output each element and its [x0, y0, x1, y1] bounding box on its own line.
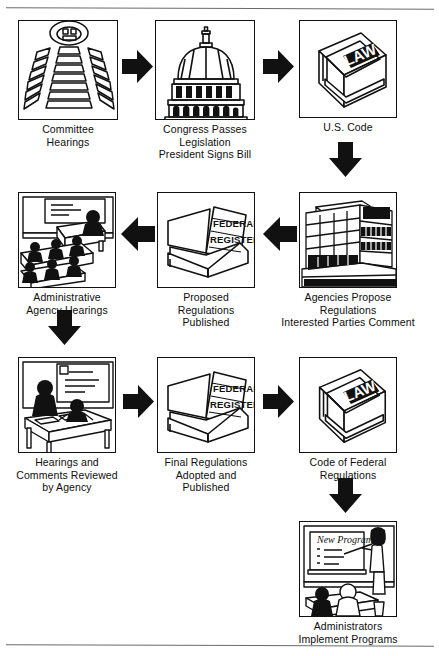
page-rule-top	[6, 7, 434, 9]
capitol-dome-icon	[156, 21, 255, 120]
node-proposed-regulations-published[interactable]: FEDERAL REGISTER Proposed Regulations Pu…	[157, 192, 255, 329]
whiteboard-label: New Program	[316, 534, 373, 545]
caption-proposed-regulations-published: Proposed Regulations Published	[157, 291, 255, 329]
caption-agencies-propose-regulations: Agencies Propose Regulations Interested …	[278, 291, 418, 329]
caption-us-code: U.S. Code	[299, 121, 397, 134]
panel-administrative-agency-hearings	[18, 192, 116, 288]
open-federal-register-book-icon: FEDERAL REGISTER	[158, 358, 255, 453]
arrow-proposed-to-hearings	[120, 215, 156, 253]
caption-administrators-implement-programs: Administrators Implement Programs	[283, 620, 413, 645]
arrow-hearings-to-review	[46, 309, 83, 347]
panel-hearings-comments-reviewed	[18, 357, 116, 453]
node-administrative-agency-hearings[interactable]: Administrative Agency Hearings	[18, 192, 116, 316]
caption-committee-hearings: Committee Hearings	[18, 123, 118, 148]
panel-committee-hearings	[18, 20, 118, 120]
law-book-icon: LAW	[300, 21, 397, 118]
node-agencies-propose-regulations[interactable]: Agencies Propose Regulations Interested …	[299, 192, 397, 329]
agency-staff-reviewing-desk-icon	[19, 358, 116, 453]
panel-proposed-regulations-published: FEDERAL REGISTER	[157, 192, 255, 288]
node-final-regulations-adopted[interactable]: FEDERAL REGISTER Final Regulations Adopt…	[157, 357, 255, 494]
node-code-of-federal-regulations[interactable]: LAW Code of Federal Regulations	[299, 357, 397, 481]
caption-congress-passes-legislation: Congress Passes Legislation President Si…	[155, 123, 255, 161]
flowchart-page: Committee Hearings	[0, 0, 439, 656]
arrow-uscode-to-agencies	[327, 141, 364, 179]
panel-code-of-federal-regulations: LAW	[299, 357, 397, 453]
arrow-cfr-to-administrators	[327, 477, 364, 515]
hearing-room-audience-icon	[19, 193, 116, 288]
panel-us-code: LAW	[299, 20, 397, 118]
open-federal-register-book-icon: FEDERAL REGISTER	[158, 193, 255, 288]
node-congress-passes-legislation[interactable]: Congress Passes Legislation President Si…	[155, 20, 255, 161]
arrow-congress-to-uscode	[262, 48, 295, 85]
arrow-committee-to-congress	[121, 48, 154, 85]
agency-office-building-icon	[300, 193, 397, 288]
classroom-presentation-icon: New Program	[300, 522, 397, 617]
arrow-agencies-to-proposed	[262, 215, 298, 253]
panel-final-regulations-adopted: FEDERAL REGISTER	[157, 357, 255, 453]
arrow-final-to-cfr	[262, 383, 295, 420]
law-book-icon: LAW	[300, 358, 397, 453]
node-committee-hearings[interactable]: Committee Hearings	[18, 20, 118, 148]
node-us-code[interactable]: LAW U.S. Code	[299, 20, 397, 134]
node-administrators-implement-programs[interactable]: New Program	[299, 521, 397, 645]
panel-administrators-implement-programs: New Program	[299, 521, 397, 617]
node-hearings-comments-reviewed[interactable]: Hearings and Comments Reviewed by Agency	[18, 357, 116, 494]
caption-hearings-comments-reviewed: Hearings and Comments Reviewed by Agency	[3, 456, 131, 494]
caption-final-regulations-adopted: Final Regulations Adopted and Published	[157, 456, 255, 494]
panel-agencies-propose-regulations	[299, 192, 397, 288]
panel-congress-passes-legislation	[155, 20, 255, 120]
amphitheater-hearing-room-icon	[19, 21, 118, 120]
arrow-review-to-final	[122, 383, 155, 420]
